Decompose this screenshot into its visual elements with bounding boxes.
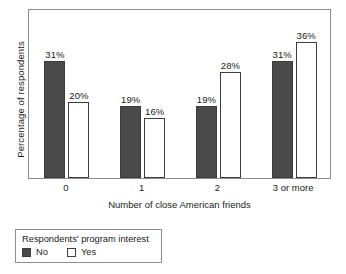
x-axis-title: Number of close American friends <box>28 199 331 210</box>
legend-label-no: No <box>36 247 48 257</box>
bar-no-0: 31% <box>44 61 65 178</box>
legend-entries: No Yes <box>22 247 155 257</box>
bar-yes-0: 20% <box>68 102 89 178</box>
bar-no-2: 19% <box>196 106 217 178</box>
bar-value-label: 20% <box>69 90 88 101</box>
bar-chart-figure: Percentage of respondents 31%20%19%16%19… <box>0 0 346 274</box>
bar-yes-2: 28% <box>220 72 241 178</box>
bar-value-label: 36% <box>297 30 316 41</box>
legend-swatch-yes-icon <box>67 248 76 257</box>
legend-title: Respondents' program interest <box>22 234 155 244</box>
bar-value-label: 28% <box>221 60 240 71</box>
legend-swatch-no-icon <box>22 248 31 257</box>
bars-layer: 31%20%19%16%19%28%31%36% <box>29 10 330 178</box>
x-tick-1: 1 <box>139 182 144 193</box>
bar-value-label: 16% <box>145 106 164 117</box>
bar-yes-1: 16% <box>144 118 165 178</box>
legend-box: Respondents' program interest No Yes <box>15 229 162 263</box>
bar-value-label: 31% <box>273 49 292 60</box>
plot-area: 31%20%19%16%19%28%31%36% <box>28 9 331 179</box>
x-tick-2: 2 <box>215 182 220 193</box>
bar-no-1: 19% <box>120 106 141 178</box>
legend-label-yes: Yes <box>81 247 96 257</box>
x-tick-0: 0 <box>63 182 68 193</box>
bar-value-label: 19% <box>197 94 216 105</box>
bar-yes-3: 36% <box>296 42 317 178</box>
bar-value-label: 31% <box>45 49 64 60</box>
y-axis-title: Percentage of respondents <box>15 15 26 185</box>
bar-value-label: 19% <box>121 94 140 105</box>
bar-no-3: 31% <box>272 61 293 178</box>
x-tick-3: 3 or more <box>273 182 314 193</box>
